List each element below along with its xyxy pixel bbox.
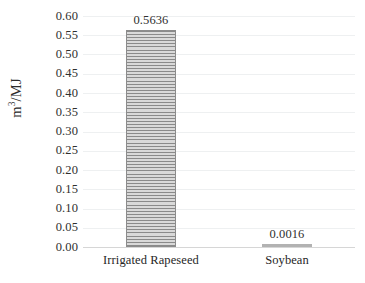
gridline	[83, 209, 355, 210]
x-axis-category-label: Soybean	[219, 253, 355, 268]
gridline	[83, 93, 355, 94]
gridline	[83, 189, 355, 190]
y-axis-title-superscript: 3	[7, 101, 17, 106]
y-axis-tick-label: 0.20	[38, 164, 78, 177]
y-axis-tick-label: 0.15	[38, 183, 78, 196]
y-axis-title-base: m	[8, 106, 24, 117]
data-label-soybean: 0.0016	[247, 227, 327, 242]
y-axis-tick-label: 0.50	[38, 48, 78, 61]
data-label-irrigated-rapeseed: 0.5636	[111, 13, 191, 28]
gridline	[83, 112, 355, 113]
gridline	[83, 35, 355, 36]
gridline	[83, 170, 355, 171]
y-axis-tick-label: 0.60	[38, 10, 78, 23]
x-axis-category-label: Irrigated Rapeseed	[83, 253, 219, 268]
y-axis-tick-label: 0.25	[38, 144, 78, 157]
y-axis-tick-label: 0.05	[38, 221, 78, 234]
y-axis-tick-label: 0.40	[38, 87, 78, 100]
gridline	[83, 132, 355, 133]
y-axis-tick-labels: 0.600.550.500.450.400.350.300.250.200.15…	[38, 10, 78, 248]
y-axis-title-tail: /MJ	[8, 78, 24, 101]
y-axis-title: m3/MJ	[8, 58, 28, 138]
y-axis-tick-label: 0.10	[38, 202, 78, 215]
y-axis-tick-label: 0.00	[38, 241, 78, 254]
gridline	[83, 74, 355, 75]
y-axis-tick-label: 0.55	[38, 29, 78, 42]
y-axis-tick-label: 0.30	[38, 125, 78, 138]
y-axis-tick-label: 0.45	[38, 67, 78, 80]
y-axis-tick-label: 0.35	[38, 106, 78, 119]
gridline	[83, 151, 355, 152]
bar-chart: m3/MJ 0.600.550.500.450.400.350.300.250.…	[0, 0, 365, 283]
bar-soybean	[262, 244, 312, 247]
gridline	[83, 54, 355, 55]
x-axis-baseline	[83, 247, 355, 248]
plot-area	[83, 16, 355, 247]
bar-irrigated-rapeseed	[126, 30, 176, 247]
